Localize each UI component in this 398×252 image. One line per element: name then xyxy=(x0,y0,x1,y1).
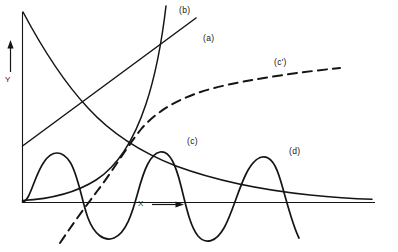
curve-label-c: (c) xyxy=(187,137,198,146)
y-axis-label: Y xyxy=(5,76,10,84)
figure-canvas: Y X (a) (b) (c') (c) (d) xyxy=(0,0,398,252)
x-axis-label: X xyxy=(138,200,143,208)
plot-area xyxy=(0,0,398,252)
curve-label-d: (d) xyxy=(289,147,300,156)
curve-sine-d xyxy=(23,152,300,241)
curve-label-c-prime: (c') xyxy=(274,58,287,67)
curve-linear-a xyxy=(23,18,197,146)
curve-decay-c xyxy=(23,12,372,199)
curve-label-a: (a) xyxy=(203,34,214,43)
curve-label-b: (b) xyxy=(179,6,190,15)
y-axis-arrowhead-icon xyxy=(7,40,13,49)
